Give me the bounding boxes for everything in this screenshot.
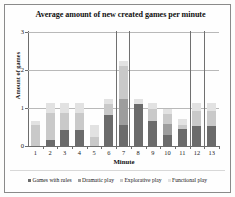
x-tick-label: 6: [102, 149, 116, 156]
bar-column: [178, 119, 187, 146]
bar-segment: [163, 124, 172, 135]
bar-segment: [192, 103, 201, 111]
bar-segment: [75, 130, 84, 146]
bar-segment: [163, 135, 172, 146]
bar-segment: [207, 103, 216, 111]
bar-segment: [148, 103, 157, 109]
bar-segment: [60, 103, 69, 113]
bar-segment: [104, 104, 113, 115]
bar-segment: [119, 99, 128, 126]
legend-item: Dramatic play: [78, 177, 114, 183]
bar-segment: [46, 140, 55, 146]
x-tick-label: 3: [58, 149, 72, 156]
x-tick-label: 8: [131, 149, 145, 156]
bar-column: [46, 103, 55, 146]
section-divider: [116, 31, 117, 147]
bar-column: [134, 99, 143, 147]
legend-item: Explorative play: [120, 177, 162, 183]
legend-swatch-icon: [78, 179, 81, 182]
bar-segment: [46, 103, 55, 113]
bar-segment: [178, 119, 187, 125]
bar-segment: [134, 104, 143, 146]
bar-segment: [119, 125, 128, 146]
bar-segment: [90, 137, 99, 147]
bar-segment: [104, 99, 113, 105]
bar-column: [148, 103, 157, 146]
x-axis-label: Minute: [28, 158, 220, 165]
x-tick-label: 9: [146, 149, 160, 156]
bar-segment: [163, 114, 172, 124]
chart-figure: Average amount of new created games per …: [0, 0, 235, 197]
bar-segment: [119, 66, 128, 98]
section-divider: [190, 31, 191, 147]
x-tick-label: 4: [72, 149, 86, 156]
bar-segment: [60, 113, 69, 130]
x-tick-label: 13: [205, 149, 219, 156]
y-tick-label: 2: [9, 66, 24, 73]
bar-column: [60, 103, 69, 146]
x-tick-label: 10: [161, 149, 175, 156]
bar-segment: [60, 130, 69, 146]
bar-segment: [46, 113, 55, 140]
bar-segment: [178, 129, 187, 146]
bar-segment: [192, 126, 201, 146]
bar-column: [119, 61, 128, 147]
y-tick-label: 0: [9, 142, 24, 149]
bar-column: [163, 109, 172, 146]
bar-segment: [148, 109, 157, 120]
section-divider: [129, 31, 130, 147]
y-axis-label-container: Amount of games: [8, 30, 22, 146]
legend-label: Dramatic play: [82, 177, 114, 183]
legend-divider: [10, 170, 225, 171]
bar-segment: [207, 126, 216, 146]
bar-column: [104, 99, 113, 147]
bar-segment: [134, 99, 143, 105]
chart-legend: Games with rulesDramatic playExplorative…: [10, 174, 225, 186]
bar-column: [31, 121, 40, 146]
legend-label: Functional play: [172, 177, 207, 183]
bar-segment: [104, 115, 113, 146]
y-tick-mark: [25, 146, 28, 147]
legend-label: Explorative play: [124, 177, 161, 183]
bar-segment: [148, 121, 157, 146]
y-axis-label: Amount of games: [14, 41, 21, 111]
bar-segment: [119, 61, 128, 67]
bar-segment: [31, 121, 40, 125]
chart-title: Average amount of new created games per …: [18, 10, 223, 20]
legend-label: Games with rules: [32, 177, 71, 183]
bar-segment: [207, 111, 216, 126]
y-tick-label: 3: [9, 28, 24, 35]
legend-item: Games with rules: [28, 177, 72, 183]
bar-column: [192, 103, 201, 146]
legend-swatch-icon: [168, 179, 171, 182]
bar-segment: [163, 109, 172, 115]
bar-segment: [90, 125, 99, 136]
bar-column: [75, 103, 84, 146]
legend-swatch-icon: [28, 179, 31, 182]
bar-column: [207, 103, 216, 146]
x-tick-label: 12: [190, 149, 204, 156]
bar-segment: [75, 103, 84, 113]
legend-item: Functional play: [168, 177, 207, 183]
y-tick-label: 1: [9, 104, 24, 111]
x-tick-label: 2: [43, 149, 57, 156]
legend-swatch-icon: [120, 179, 123, 182]
x-tick-mark: [219, 147, 220, 149]
x-tick-label: 7: [117, 149, 131, 156]
plot-area: [28, 32, 219, 146]
bar-segment: [75, 113, 84, 130]
x-tick-label: 11: [175, 149, 189, 156]
section-divider: [204, 31, 205, 147]
bar-segment: [31, 125, 40, 146]
bar-column: [90, 125, 99, 146]
x-tick-label: 5: [87, 149, 101, 156]
bar-segment: [192, 111, 201, 126]
x-tick-label: 1: [28, 149, 42, 156]
bar-segment: [178, 125, 187, 129]
